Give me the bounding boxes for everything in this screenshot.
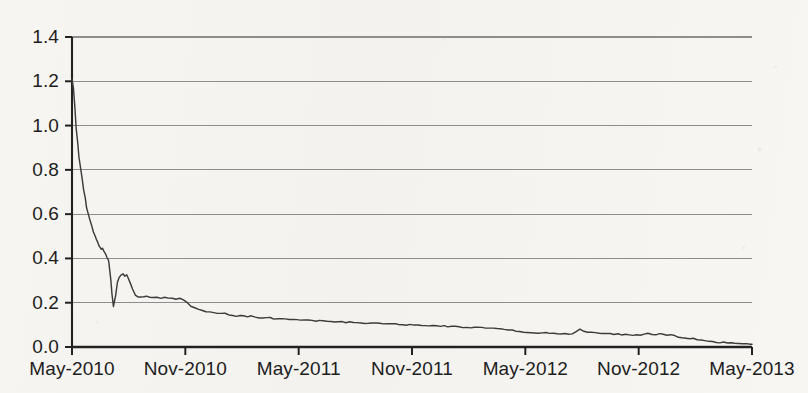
y-axis-tick-label: 1.2 xyxy=(0,70,59,92)
data-series-line xyxy=(72,79,752,345)
chart-figure: 0.00.20.40.60.81.01.21.4 May-2010Nov-201… xyxy=(0,0,808,393)
x-axis-tick-label: Nov-2012 xyxy=(597,358,680,380)
x-axis-tick-label: May-2011 xyxy=(257,358,341,380)
x-axis-tick-label: Nov-2011 xyxy=(371,358,453,380)
y-axis-tick-label: 1.4 xyxy=(0,26,59,48)
x-axis-tick-label: May-2010 xyxy=(29,358,114,380)
y-axis-tick-label: 0.4 xyxy=(0,247,59,269)
gridlines xyxy=(72,37,752,303)
x-axis-tick-label: Nov-2010 xyxy=(144,358,227,380)
y-axis-tick-label: 1.0 xyxy=(0,115,59,137)
y-axis-tick-label: 0.0 xyxy=(0,336,59,358)
x-axis-ticks xyxy=(72,347,752,355)
y-axis-tick-label: 0.2 xyxy=(0,292,59,314)
chart-plot-area xyxy=(0,0,808,393)
x-axis-tick-label: May-2013 xyxy=(709,358,794,380)
x-axis-tick-label: May-2012 xyxy=(483,358,568,380)
y-axis-tick-label: 0.6 xyxy=(0,203,59,225)
y-axis-tick-label: 0.8 xyxy=(0,159,59,181)
